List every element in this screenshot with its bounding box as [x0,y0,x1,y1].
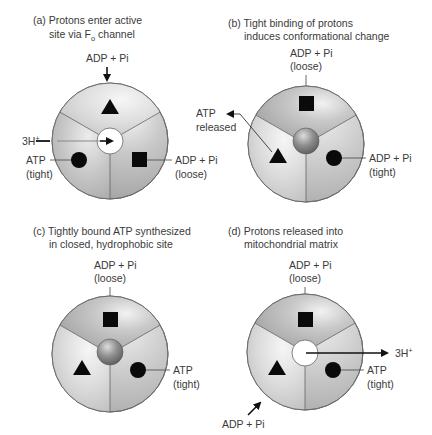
panel-a-loose-label: (loose) [175,168,207,180]
atp-synthase-binding-change-diagram: (a) Protons enter active site via Fo cha… [0,0,432,435]
panel-d-top-label: ADP + Pi [289,259,332,271]
panel-a-atp-label: ATP [26,154,46,166]
panel-d-bottom-label: ADP + Pi [222,418,265,430]
panel-a-top-label: ADP + Pi [86,52,129,64]
panel-b-released-label: released [196,121,236,133]
panel-d-loose-label: (loose) [289,272,321,284]
closed-hub [293,128,319,154]
panel-c-loose-label: (loose) [94,272,126,284]
panel-b-title-line1: (b) Tight binding of protons [228,17,353,29]
panel-c-title-line2: in closed, hydrophobic site [49,238,173,250]
square-icon [298,312,313,327]
substrate-in-arrow [248,403,260,415]
panel-b-tight-label: (tight) [369,166,396,178]
panel-b-right-label: ADP + Pi [369,152,412,164]
square-icon [103,312,118,327]
panel-b-atp-label: ATP [196,107,216,119]
panel-a-right-label: ADP + Pi [175,154,218,166]
rotor-disk-d [247,294,363,410]
panel-a-tight-label: (tight) [26,168,53,180]
closed-hub [97,339,123,365]
panel-b: (b) Tight binding of protons induces con… [196,17,412,202]
panel-c-top-label: ADP + Pi [94,259,137,271]
panel-b-title-line2: induces conformational change [244,30,390,42]
circle-icon [130,362,146,378]
panel-c-atp-label: ATP [173,364,193,376]
square-icon [132,152,147,167]
panel-d-proton-label: 3H+ [395,347,413,359]
panel-c: (c) Tightly bound ATP synthesized in clo… [33,225,200,412]
circle-icon [325,362,341,378]
square-icon [299,96,314,111]
panel-c-title-line1: (c) Tightly bound ATP synthesized [33,225,191,237]
panel-a-title-line2: site via Fo channel [49,28,135,43]
panel-d: (d) Protons released into mitochondrial … [222,225,413,430]
panel-d-atp-label: ATP [367,364,387,376]
panel-a: (a) Protons enter active site via Fo cha… [22,14,218,199]
panel-d-tight-label: (tight) [367,378,394,390]
panel-b-top-label: ADP + Pi [290,47,333,59]
panel-b-loose-label: (loose) [290,60,322,72]
panel-a-title-line1: (a) Protons enter active [33,14,142,26]
panel-d-title-line1: (d) Protons released into [228,225,343,237]
panel-d-title-line2: mitochondrial matrix [244,238,339,250]
circle-icon [326,150,342,166]
circle-icon [71,152,87,168]
panel-c-tight-label: (tight) [173,378,200,390]
